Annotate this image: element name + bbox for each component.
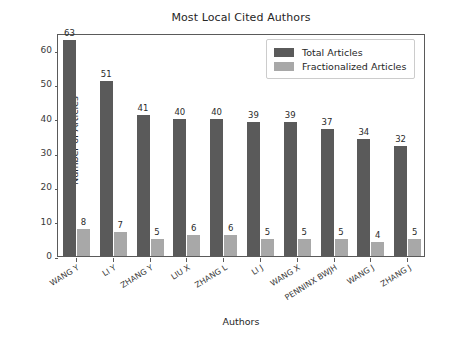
x-tick-mark bbox=[150, 258, 151, 262]
chart-legend: Total Articles Fractionalized Articles bbox=[266, 39, 415, 79]
legend-swatch-fractionalized-articles bbox=[274, 62, 294, 71]
x-tick-mark bbox=[113, 258, 114, 262]
x-axis-label: Authors bbox=[57, 316, 425, 327]
bar-value-label: 39 bbox=[248, 110, 259, 120]
y-tick-mark bbox=[55, 223, 59, 224]
bar-total-wang-j: 34 bbox=[357, 139, 370, 256]
bar-value-label: 34 bbox=[358, 127, 369, 137]
bar-value-label: 5 bbox=[265, 227, 270, 237]
bar-total-penninx-bwjh: 37 bbox=[321, 129, 334, 256]
y-tick-mark bbox=[55, 258, 59, 259]
bar-total-zhang-l: 40 bbox=[210, 119, 223, 256]
bar-value-label: 41 bbox=[138, 103, 149, 113]
bar-value-label: 4 bbox=[375, 230, 380, 240]
bar-value-label: 5 bbox=[412, 227, 417, 237]
bar-fractionalized-wang-x: 5 bbox=[298, 239, 311, 256]
x-tick-mark bbox=[297, 258, 298, 262]
plot-area: Number of Articles 0102030405060 WANG YL… bbox=[57, 34, 425, 257]
bar-total-zhang-j: 32 bbox=[394, 146, 407, 256]
chart-title: Most Local Cited Authors bbox=[57, 11, 425, 24]
y-tick-label: 0 bbox=[12, 251, 52, 261]
bar-value-label: 51 bbox=[101, 69, 112, 79]
legend-entry-fractionalized-articles: Fractionalized Articles bbox=[274, 59, 406, 73]
bar-value-label: 7 bbox=[117, 220, 122, 230]
x-tick-mark bbox=[186, 258, 187, 262]
y-tick-label: 50 bbox=[12, 79, 52, 89]
bar-fractionalized-zhang-j: 5 bbox=[408, 239, 421, 256]
bar-fractionalized-li-j: 5 bbox=[261, 239, 274, 256]
bar-total-liu-x: 40 bbox=[173, 119, 186, 256]
y-tick-mark bbox=[55, 120, 59, 121]
legend-swatch-total-articles bbox=[274, 48, 294, 57]
legend-label-fractionalized-articles: Fractionalized Articles bbox=[302, 61, 406, 72]
bar-value-label: 6 bbox=[228, 223, 233, 233]
y-tick-label: 20 bbox=[12, 182, 52, 192]
y-tick-label: 40 bbox=[12, 114, 52, 124]
bar-fractionalized-wang-j: 4 bbox=[371, 242, 384, 256]
bar-value-label: 40 bbox=[174, 107, 185, 117]
y-tick-label: 60 bbox=[12, 45, 52, 55]
x-tick-mark bbox=[76, 258, 77, 262]
bar-value-label: 5 bbox=[338, 227, 343, 237]
x-tick-mark bbox=[407, 258, 408, 262]
bar-value-label: 63 bbox=[64, 28, 75, 38]
legend-label-total-articles: Total Articles bbox=[302, 47, 363, 58]
bar-fractionalized-wang-y: 8 bbox=[77, 229, 90, 256]
x-tick-mark bbox=[334, 258, 335, 262]
bar-total-wang-y: 63 bbox=[63, 40, 76, 256]
bar-total-wang-x: 39 bbox=[284, 122, 297, 256]
bar-value-label: 40 bbox=[211, 107, 222, 117]
y-tick-label: 30 bbox=[12, 148, 52, 158]
bar-value-label: 37 bbox=[322, 117, 333, 127]
bar-total-li-j: 39 bbox=[247, 122, 260, 256]
y-tick-mark bbox=[55, 86, 59, 87]
bar-value-label: 5 bbox=[154, 227, 159, 237]
bar-total-zhang-y: 41 bbox=[137, 115, 150, 256]
x-tick-mark bbox=[260, 258, 261, 262]
bar-value-label: 6 bbox=[191, 223, 196, 233]
x-tick-mark bbox=[223, 258, 224, 262]
legend-entry-total-articles: Total Articles bbox=[274, 45, 406, 59]
y-tick-mark bbox=[55, 52, 59, 53]
bar-fractionalized-zhang-l: 6 bbox=[224, 235, 237, 256]
bar-value-label: 39 bbox=[285, 110, 296, 120]
bar-value-label: 32 bbox=[395, 134, 406, 144]
chart-figure: Most Local Cited Authors Number of Artic… bbox=[0, 0, 449, 349]
bar-value-label: 5 bbox=[301, 227, 306, 237]
bar-value-label: 8 bbox=[81, 217, 86, 227]
y-tick-mark bbox=[55, 189, 59, 190]
bar-fractionalized-penninx-bwjh: 5 bbox=[335, 239, 348, 256]
bar-total-li-y: 51 bbox=[100, 81, 113, 256]
y-tick-mark bbox=[55, 155, 59, 156]
x-tick-mark bbox=[370, 258, 371, 262]
bar-fractionalized-liu-x: 6 bbox=[187, 235, 200, 256]
bar-fractionalized-zhang-y: 5 bbox=[151, 239, 164, 256]
bar-fractionalized-li-y: 7 bbox=[114, 232, 127, 256]
y-tick-label: 10 bbox=[12, 217, 52, 227]
